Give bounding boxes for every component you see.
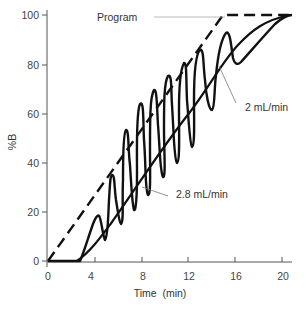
gradient-chart: 0 20 40 60 80 100 0 4 8 12 16 20 Time (m… (0, 0, 306, 309)
y-tick-label-60: 60 (27, 108, 39, 120)
flow-2-leader-line (219, 66, 236, 103)
program-label: Program (97, 11, 138, 23)
x-tick-label-0: 0 (45, 270, 51, 282)
y-ticks: 0 20 40 60 80 100 (21, 9, 47, 267)
x-ticks: 0 4 8 12 16 20 (45, 257, 289, 282)
y-tick-label-0: 0 (33, 255, 39, 267)
x-axis-title: Time (min) (134, 287, 187, 299)
x-tick-label-20: 20 (277, 270, 289, 282)
y-tick-label-100: 100 (21, 9, 39, 21)
x-tick-label-12: 12 (183, 270, 195, 282)
x-tick-label-16: 16 (230, 270, 242, 282)
flow-2-8-annotation: 2.8 mL/min (142, 187, 228, 200)
program-annotation: Program (97, 11, 225, 23)
series-2-ml-min-line (48, 15, 290, 261)
x-tick-label-4: 4 (88, 270, 94, 282)
flow-2-annotation: 2 mL/min (219, 66, 288, 113)
x-tick-label-8: 8 (140, 270, 146, 282)
y-tick-label-20: 20 (27, 206, 39, 218)
y-tick-label-40: 40 (27, 157, 39, 169)
y-axis-title: %B (6, 134, 18, 150)
y-tick-label-80: 80 (27, 59, 39, 71)
axes (47, 10, 292, 262)
flow-2-label: 2 mL/min (245, 101, 288, 113)
flow-2-8-label: 2.8 mL/min (176, 188, 228, 200)
